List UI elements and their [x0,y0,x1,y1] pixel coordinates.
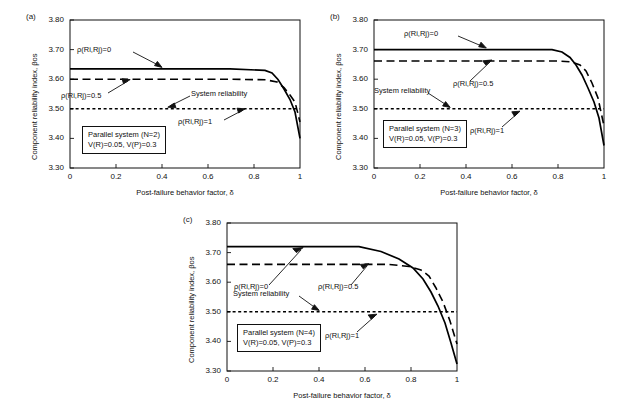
panel-c: (c) Component reliability index, βos 3.3… [159,206,478,412]
panel-b-annot-rho-05: ρ(Ri,Rj)=0.5 [453,79,493,88]
panel-a-curve-rho05 [70,79,300,122]
panel-a-legend-line2: V(R)=0.05, V(P)=0.3 [88,140,160,150]
panel-c-annot-system-reliability: System reliability [233,289,289,298]
panel-c-annot-rho-1: ρ(Ri,Rj)=1 [325,331,359,340]
panel-b-plot [318,0,637,206]
panel-b: (b) Component reliability index, βos 3.3… [318,0,637,206]
panel-b-annot-rho-0: ρ(Ri,Rj)=0 [404,29,438,38]
panel-b-annot-rho-1: ρ(Ri,Rj)=1 [470,126,504,135]
panel-a-annot-rho-0: ρ(Ri,Rj)=0 [77,45,111,54]
panel-a-legend-line1: Parallel system (N=2) [88,130,160,140]
panel-c-annot-rho-05: ρ(Ri,Rj)=0.5 [318,282,358,291]
panel-c-legend-line2: V(R)=0.05, V(P)=0.3 [243,338,315,348]
panel-c-legend-box: Parallel system (N=4) V(R)=0.05, V(P)=0.… [237,324,321,352]
panel-a-annot-rho-05: ρ(Ri,Rj)=0.5 [61,91,101,100]
panel-b-legend-box: Parallel system (N=3) V(R)=0.05, V(P)=0.… [383,120,467,148]
panel-c-plot [159,206,478,412]
panel-c-legend-line1: Parallel system (N=4) [243,328,315,338]
panel-a-annot-system-reliability: System reliability [191,89,247,98]
panel-b-legend-line2: V(R)=0.05, V(P)=0.3 [389,134,461,144]
panel-a-legend-box: Parallel system (N=2) V(R)=0.05, V(P)=0.… [82,126,166,154]
panel-a-plot [0,0,318,206]
panel-a-annot-rho-1: ρ(Ri,Rj)=1 [178,117,212,126]
panel-a: (a) Component reliability index, βos 3.3… [0,0,318,206]
panel-b-legend-line1: Parallel system (N=3) [389,124,461,134]
panel-b-annot-system-reliability: System reliability [374,86,430,95]
